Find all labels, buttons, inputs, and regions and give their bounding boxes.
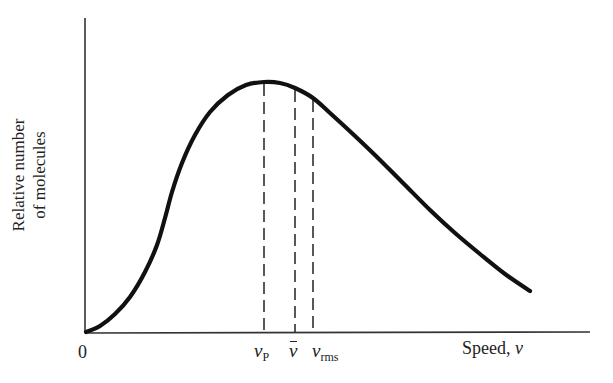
x-axis-label-var: v bbox=[515, 338, 523, 358]
vbar-label: v bbox=[289, 340, 297, 362]
speed-distribution-chart bbox=[0, 0, 613, 383]
vp-label-sub: P bbox=[262, 350, 269, 364]
x-axis-label: Speed, v bbox=[462, 338, 523, 359]
vbar-label-main: v bbox=[289, 340, 297, 362]
y-axis-label: Relative number of molecules bbox=[8, 60, 68, 290]
y-axis-label-line1: Relative number bbox=[8, 60, 29, 290]
vp-label: vP bbox=[254, 340, 269, 362]
distribution-curve bbox=[86, 82, 530, 332]
x-axis bbox=[85, 332, 590, 333]
x-axis-label-word: Speed, bbox=[462, 338, 515, 358]
vrms-label-sub: rms bbox=[320, 350, 338, 364]
y-axis-label-line2: of molecules bbox=[29, 60, 50, 290]
vrms-label: vrms bbox=[312, 340, 338, 362]
origin-tick-label: 0 bbox=[78, 342, 87, 363]
